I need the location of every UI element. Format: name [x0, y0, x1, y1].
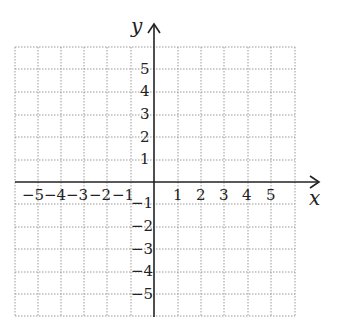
x-tick-label: −5	[22, 188, 44, 203]
y-tick-label: −3	[131, 242, 153, 257]
y-tick-label: 2	[140, 130, 150, 145]
x-axis-label: x	[309, 188, 320, 208]
y-tick-label: 3	[140, 107, 150, 122]
x-tick-label: −4	[44, 188, 66, 203]
y-tick-label: 4	[140, 84, 150, 99]
y-tick-label: −5	[131, 287, 153, 302]
x-tick-label: −3	[66, 188, 88, 203]
y-axis-label: y	[131, 16, 142, 36]
y-tick-label: −2	[131, 219, 153, 234]
y-tick-label: −4	[131, 264, 153, 279]
x-tick-label: −2	[89, 188, 111, 203]
y-tick-label: −1	[131, 196, 153, 211]
x-tick-label: 2	[196, 188, 206, 203]
x-tick-label: 4	[242, 188, 252, 203]
y-tick-label: 1	[140, 152, 150, 167]
x-tick-label: 3	[219, 188, 229, 203]
coordinate-grid	[0, 0, 339, 328]
y-tick-label: 5	[140, 62, 150, 77]
x-tick-label: 1	[173, 188, 183, 203]
x-tick-label: 5	[266, 188, 276, 203]
